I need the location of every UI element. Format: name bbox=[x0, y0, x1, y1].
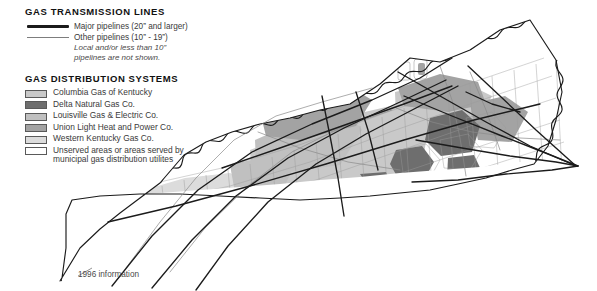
legend-note-line-1: Local and/or less than 10” bbox=[74, 44, 225, 53]
legend-label-distribution: Union Light Heat and Power Co. bbox=[47, 123, 173, 132]
distribution-color-swatch bbox=[25, 113, 47, 121]
distribution-color-swatch bbox=[25, 124, 47, 132]
legend-gas-transmission-lines: GAS TRANSMISSION LINES Major pipelines (… bbox=[25, 6, 225, 62]
legend-note-line-2: pipelines are not shown. bbox=[74, 54, 225, 63]
other-pipeline-swatch-icon bbox=[25, 37, 70, 38]
legend-row-distribution: Columbia Gas of Kentucky bbox=[25, 88, 240, 100]
legend-label-distribution: Columbia Gas of Kentucky bbox=[47, 88, 152, 97]
legend-row-major-pipelines: Major pipelines (20” and larger) bbox=[25, 21, 225, 32]
legend-distribution-title: GAS DISTRIBUTION SYSTEMS bbox=[25, 73, 240, 84]
legend-label-other-pipelines: Other pipelines (10” - 19”) bbox=[70, 33, 168, 43]
map-footnote: 1996 information bbox=[78, 270, 139, 279]
legend-gas-distribution-systems: GAS DISTRIBUTION SYSTEMS Columbia Gas of… bbox=[25, 73, 240, 165]
distribution-color-swatch bbox=[25, 101, 47, 109]
distribution-color-swatch bbox=[25, 90, 47, 98]
legend-distribution-rows: Columbia Gas of KentuckyDelta Natural Ga… bbox=[25, 88, 240, 165]
legend-transmission-rows: Major pipelines (20” and larger) Other p… bbox=[25, 21, 225, 62]
major-pipeline-swatch-icon bbox=[25, 25, 70, 27]
legend-transmission-title: GAS TRANSMISSION LINES bbox=[25, 6, 225, 17]
legend-label-distribution: Delta Natural Gas Co. bbox=[47, 100, 135, 109]
legend-label-distribution: Unserved areas or areas served by munici… bbox=[47, 146, 213, 165]
distribution-color-swatch bbox=[25, 147, 47, 155]
legend-label-major-pipelines: Major pipelines (20” and larger) bbox=[70, 22, 188, 32]
legend-row-other-pipelines: Other pipelines (10” - 19”) bbox=[25, 32, 225, 43]
legend-label-distribution: Western Kentucky Gas Co. bbox=[47, 134, 154, 143]
map-figure: GAS TRANSMISSION LINES Major pipelines (… bbox=[0, 0, 597, 291]
distribution-color-swatch bbox=[25, 136, 47, 144]
legend-row-distribution: Unserved areas or areas served by munici… bbox=[25, 146, 240, 165]
legend-label-distribution: Louisville Gas & Electric Co. bbox=[47, 111, 158, 120]
